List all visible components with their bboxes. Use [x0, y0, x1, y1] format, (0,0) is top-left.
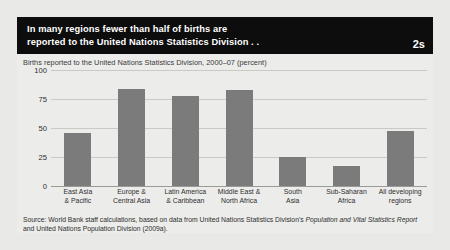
source-publication-title: Population and Vital Statistics Report	[306, 216, 418, 223]
bar[interactable]	[387, 131, 414, 186]
chart-panel: Births reported to the United Nations St…	[17, 54, 433, 214]
bar-cell	[105, 70, 159, 186]
y-axis-tick-label: 75	[39, 95, 47, 104]
figure-title-line-1: In many regions fewer than half of birth…	[27, 23, 413, 35]
x-axis-category-label-line: Africa	[320, 197, 374, 206]
figure-title: In many regions fewer than half of birth…	[27, 23, 413, 48]
y-axis-tick-label: 100	[34, 66, 47, 75]
figure-number: 2s	[413, 38, 425, 54]
figure-title-line-2: reported to the United Nations Statistic…	[27, 36, 413, 48]
plot-area	[51, 70, 427, 186]
x-axis-category-label-line: & Pacific	[51, 197, 105, 206]
x-axis-category-label: East Asia& Pacific	[51, 188, 105, 205]
y-axis-tick-label: 25	[39, 153, 47, 162]
bar[interactable]	[226, 90, 253, 186]
bar-cell	[51, 70, 105, 186]
bar-cell	[158, 70, 212, 186]
source-prefix: Source: World Bank staff calculations, b…	[23, 216, 306, 223]
x-axis-category-label: All developingregions	[373, 188, 427, 205]
bar[interactable]	[279, 157, 306, 186]
x-axis-category-label-line: South	[266, 188, 320, 197]
x-axis-labels: East Asia& PacificEurope &Central AsiaLa…	[51, 188, 427, 205]
x-axis-category-label-line: Asia	[266, 197, 320, 206]
x-axis-category-label: Latin America& Caribbean	[158, 188, 212, 205]
bar[interactable]	[118, 89, 145, 186]
bar[interactable]	[64, 133, 91, 186]
x-axis-category-label-line: Latin America	[158, 188, 212, 197]
y-axis: 1007550250	[23, 70, 47, 186]
bar[interactable]	[333, 166, 360, 186]
x-axis-category-label: Middle East &North Africa	[212, 188, 266, 205]
source-note: Source: World Bank staff calculations, b…	[17, 216, 433, 233]
x-axis-category-label-line: regions	[373, 197, 427, 206]
x-axis-category-label: Europe &Central Asia	[105, 188, 159, 205]
x-axis-category-label-line: Middle East &	[212, 188, 266, 197]
bar-cell	[266, 70, 320, 186]
bar-cell	[320, 70, 374, 186]
x-axis-category-label-line: Sub-Saharan	[320, 188, 374, 197]
axis-baseline	[51, 186, 427, 187]
x-axis-category-label-line: North Africa	[212, 197, 266, 206]
x-axis-category-label: Sub-SaharanAfrica	[320, 188, 374, 205]
x-axis-category-label-line: All developing	[373, 188, 427, 197]
figure-container: In many regions fewer than half of birth…	[17, 17, 433, 233]
source-suffix: and United Nations Population Division (…	[23, 225, 168, 232]
bar-cell	[373, 70, 427, 186]
bar-cell	[212, 70, 266, 186]
chart-subtitle: Births reported to the United Nations St…	[23, 58, 267, 67]
x-axis-category-label-line: East Asia	[51, 188, 105, 197]
y-axis-tick-label: 50	[39, 124, 47, 133]
x-axis-category-label-line: & Caribbean	[158, 197, 212, 206]
plot-area-wrapper: 1007550250 East Asia& PacificEurope &Cen…	[17, 70, 433, 214]
bar-series	[51, 70, 427, 186]
bar[interactable]	[172, 96, 199, 186]
y-axis-tick-label: 0	[43, 182, 47, 191]
figure-title-bar: In many regions fewer than half of birth…	[17, 17, 433, 54]
x-axis-category-label: SouthAsia	[266, 188, 320, 205]
x-axis-category-label-line: Central Asia	[105, 197, 159, 206]
x-axis-category-label-line: Europe &	[105, 188, 159, 197]
